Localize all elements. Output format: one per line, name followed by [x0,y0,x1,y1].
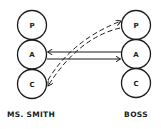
boss-ego-states: P A C [122,11,151,98]
dashed-arrow-smith-child-to-boss-parent [48,21,121,80]
ms-smith-ego-states: P A C [18,11,47,99]
ulterior-transactions [48,21,121,86]
boss-adult-label: A [133,51,139,59]
boss-adult-state: A [122,40,151,69]
boss-name-label: BOSS [124,110,148,119]
adult-transactions [47,52,121,59]
ms-smith-parent-state: P [18,11,47,40]
ms-smith-parent-label: P [29,22,34,30]
transaction-diagram: P A C P A C MS. SMITH [0,0,161,129]
ms-smith-child-state: C [18,70,47,99]
boss-child-label: C [133,80,138,88]
ms-smith-name-label: MS. SMITH [7,110,55,119]
boss-parent-state: P [122,11,151,40]
ms-smith-child-label: C [29,81,34,89]
ms-smith-adult-state: A [18,40,47,69]
ms-smith-adult-label: A [29,51,35,59]
boss-child-state: C [122,69,151,98]
dashed-arrow-boss-parent-to-smith-child [48,28,120,86]
boss-parent-label: P [133,22,138,30]
